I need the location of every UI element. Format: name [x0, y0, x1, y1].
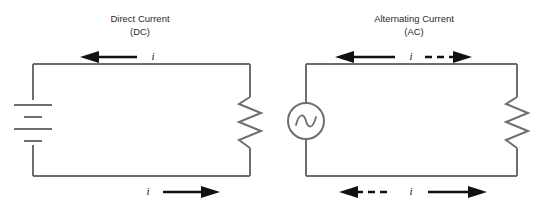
diagram-canvas: Direct Current (DC)	[0, 0, 544, 215]
ac-top-current-label: i	[409, 50, 412, 62]
ac-top-arrow-head-left	[335, 51, 354, 63]
ac-bottom-current-arrow-left	[339, 186, 390, 198]
ac-title-line1: Alternating Current	[374, 13, 454, 24]
ac-bottom-arrow-head-left	[339, 186, 358, 198]
resistor-zigzag	[239, 97, 261, 148]
battery-symbol	[14, 105, 52, 141]
dc-panel: Direct Current (DC)	[14, 13, 261, 198]
ac-source-symbol	[288, 103, 324, 139]
resistor-symbol	[239, 97, 261, 148]
ac-top-arrow-head-right	[453, 51, 472, 63]
ac-top-current-arrow-left	[335, 51, 395, 63]
dc-top-current-arrow	[80, 51, 137, 63]
dc-bottom-current-label: i	[146, 185, 149, 197]
dc-bottom-arrow-head-right	[201, 186, 220, 198]
dc-title-line2: (DC)	[130, 26, 150, 37]
dc-title-line1: Direct Current	[110, 13, 169, 24]
ac-bottom-arrow-head-right	[468, 186, 487, 198]
ac-title-line2: (AC)	[404, 26, 424, 37]
ac-panel: Alternating Current (AC) i	[288, 13, 528, 198]
dc-bottom-current-arrow	[163, 186, 220, 198]
dc-top-arrow-head-left	[80, 51, 99, 63]
ac-top-current-arrow-right	[425, 51, 472, 63]
circuit-diagram: Direct Current (DC)	[0, 0, 544, 215]
resistor-symbol	[506, 97, 528, 148]
dc-top-current-label: i	[151, 50, 154, 62]
ac-bottom-current-label: i	[409, 185, 412, 197]
ac-bottom-current-arrow-right	[428, 186, 487, 198]
resistor-zigzag	[506, 97, 528, 148]
